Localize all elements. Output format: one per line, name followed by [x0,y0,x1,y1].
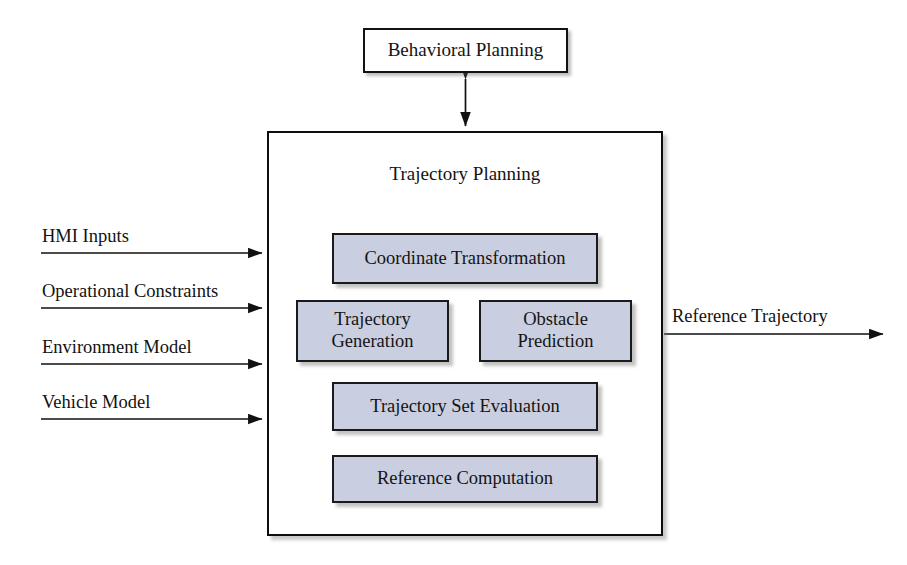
node-coordinate-transformation-label: Coordinate Transformation [365,248,566,270]
node-trajectory-generation-line1: Trajectory [334,309,410,329]
node-coordinate-transformation[interactable]: Coordinate Transformation [332,233,598,284]
node-obstacle-prediction-line2: Prediction [517,331,593,351]
node-trajectory-generation[interactable]: Trajectory Generation [296,300,449,362]
edge-label-environment-model: Environment Model [42,337,192,358]
diagram-canvas: Behavioral Planning Trajectory Planning … [0,0,907,565]
node-behavioral-planning-label: Behavioral Planning [388,39,544,61]
node-behavioral-planning[interactable]: Behavioral Planning [363,28,568,73]
node-obstacle-prediction-label: Obstacle Prediction [517,309,593,353]
node-trajectory-set-evaluation-label: Trajectory Set Evaluation [370,396,559,418]
node-reference-computation[interactable]: Reference Computation [332,455,598,503]
node-trajectory-set-evaluation[interactable]: Trajectory Set Evaluation [332,382,598,431]
node-trajectory-generation-label: Trajectory Generation [331,309,413,353]
node-reference-computation-label: Reference Computation [377,468,553,490]
edge-label-vehicle-model: Vehicle Model [42,392,150,413]
node-obstacle-prediction[interactable]: Obstacle Prediction [479,300,632,362]
edge-label-reference-trajectory: Reference Trajectory [672,306,828,327]
node-trajectory-generation-line2: Generation [331,331,413,351]
node-obstacle-prediction-line1: Obstacle [523,309,588,329]
container-title-trajectory-planning: Trajectory Planning [267,163,663,185]
edge-label-operational-constraints: Operational Constraints [42,281,218,302]
edge-label-hmi-inputs: HMI Inputs [42,226,129,247]
